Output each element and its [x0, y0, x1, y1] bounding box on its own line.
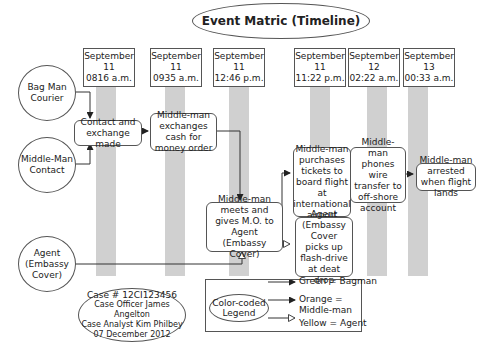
legend-title: Color-coded Legend — [209, 294, 269, 322]
event-agent-pickup: Agent (Embassy Cover picks up flash-driv… — [295, 217, 353, 277]
case-analyst: Case Analyst Kim Philbey — [81, 320, 182, 330]
event-exchange-cash: Middle-man exchanges cash for money orde… — [150, 113, 217, 151]
event-arrested: Middle-man arrested when flight lands — [416, 163, 476, 191]
legend-entry-green: Green = Bagman — [299, 276, 377, 287]
event-contact-exchange: Contact and exchange made — [74, 120, 142, 146]
legend-entry-orange: Orange = Middle-man — [299, 294, 359, 316]
actor-agent-embassy-cover: Agent (Embassy Cover) — [18, 236, 76, 292]
event-meets-agent: Middle-man meets and gives M.O. to Agent… — [206, 202, 283, 252]
event-purchase-tickets: Middle-man purchases tickets to board fl… — [293, 147, 351, 217]
legend-entry-yellow: Yellow = Agent — [299, 318, 367, 329]
case-date: 07 December 2012 — [93, 330, 170, 340]
event-wire-transfer: Middle-man phones wire transfer to off-s… — [350, 147, 406, 203]
case-number: Case # 12CI123456 — [87, 290, 177, 300]
actor-bag-man-courier: Bag Man Courier — [18, 65, 76, 121]
actor-middle-man-contact: Middle-Man Contact — [18, 137, 76, 193]
case-officer: Case Officer James Angelton — [79, 300, 185, 320]
case-info-oval: Case # 12CI123456 Case Officer James Ang… — [78, 288, 186, 342]
